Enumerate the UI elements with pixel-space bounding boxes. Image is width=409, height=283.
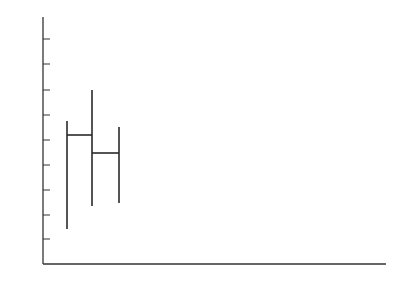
y-ticks xyxy=(43,39,50,239)
price-bars xyxy=(67,90,144,229)
price-bar xyxy=(92,90,119,206)
price-bar xyxy=(67,121,92,229)
price-bar xyxy=(119,127,144,203)
hlc-chart xyxy=(0,0,409,283)
